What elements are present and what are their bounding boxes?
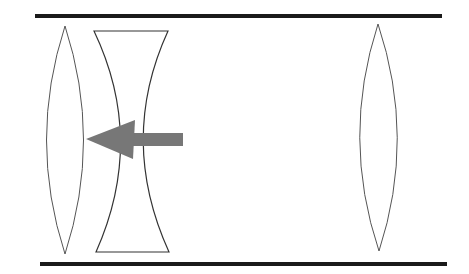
left-convex-lens bbox=[47, 26, 84, 254]
left-arrow-icon bbox=[86, 120, 183, 159]
bottom-rail bbox=[40, 262, 447, 266]
top-rail bbox=[35, 14, 442, 18]
lens-diagram bbox=[0, 0, 469, 274]
right-convex-lens bbox=[360, 24, 398, 251]
